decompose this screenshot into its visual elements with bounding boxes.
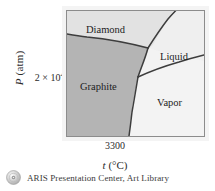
y-axis-label: P (atm) <box>13 28 25 108</box>
credit-line: ARIS Presentation Center, Art Library <box>6 170 169 185</box>
y-tick-mantissa: 2 × 10 <box>35 72 61 83</box>
plot-area <box>66 10 205 137</box>
phase-diagram-figure: P (atm) 2 × 104 <box>0 0 215 191</box>
credit-text: ARIS Presentation Center, Art Library <box>27 173 169 183</box>
disc-icon <box>6 170 21 185</box>
x-tick-label: 3300 <box>90 140 140 151</box>
y-axis-symbol: P <box>13 78 25 85</box>
phase-diagram-svg <box>67 11 204 136</box>
y-axis-unit: (atm) <box>13 51 25 76</box>
y-tick-label: 2 × 104 <box>26 71 64 83</box>
